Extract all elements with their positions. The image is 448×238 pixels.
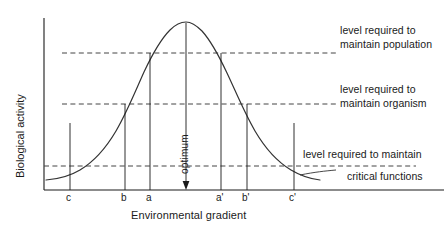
annotation-critical-line2: critical functions (347, 170, 423, 182)
tolerance-curve-figure: Biological activity Environmental gradie… (0, 0, 448, 238)
annotation-population-line1: level required to (340, 24, 416, 36)
x-axis-title: Environmental gradient (131, 209, 246, 222)
y-axis-title: Biological activity (14, 94, 26, 178)
tick-label-c: c (66, 192, 71, 204)
critical-functions-leader (300, 170, 336, 175)
annotation-population-line2: maintain population (340, 38, 432, 50)
tick-label-b-prime: b' (242, 192, 249, 204)
tick-label-b: b (121, 192, 127, 204)
annotation-organism-line2: maintain organism (340, 97, 427, 109)
optimum-arrowhead (183, 181, 190, 190)
annotation-organism-line1: level required to (340, 83, 416, 95)
tick-label-c-prime: c' (289, 192, 296, 204)
tick-label-a: a (146, 192, 152, 204)
optimum-label: optimum (179, 134, 190, 174)
tick-label-a-prime: a' (216, 192, 223, 204)
annotation-critical-line1: level required to maintain (303, 148, 422, 160)
